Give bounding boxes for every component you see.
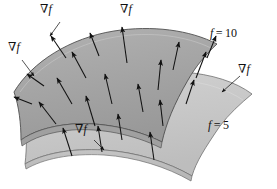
level-surface-label-f-5: f = 5 <box>208 118 229 133</box>
gradient-label-bottom-mid: ∇f <box>75 122 87 137</box>
gradient-label-top-left: ∇f <box>40 2 52 17</box>
leader-line-top-left <box>50 22 60 36</box>
level-surface-label-f-10: f = 10 <box>210 26 237 41</box>
figure-canvas: ∇f ∇f ∇f ∇f ∇f f = 10 f = 5 <box>0 0 277 189</box>
gradient-label-right: ∇f <box>238 62 250 77</box>
gradient-label-left: ∇f <box>8 40 20 55</box>
gradient-label-top-center: ∇f <box>120 2 132 17</box>
